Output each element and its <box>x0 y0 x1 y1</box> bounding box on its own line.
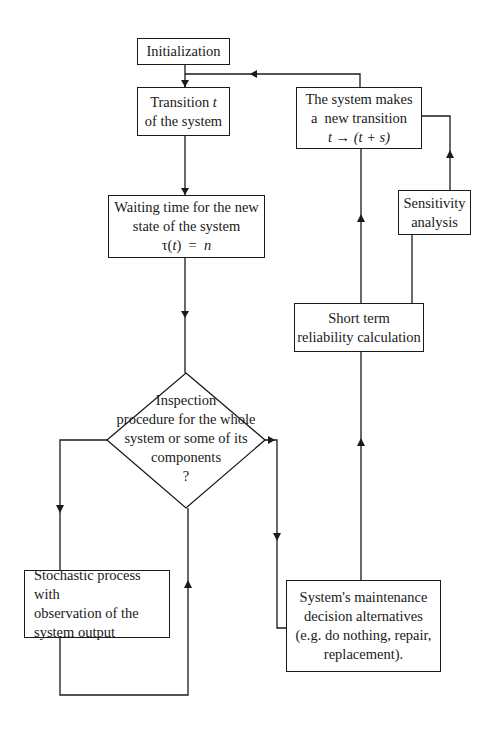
sensitivity-analysis-box: Sensitivity analysis <box>398 190 471 235</box>
transition-line1: Transition t <box>150 93 217 112</box>
waiting-time-box: Waiting time for the new state of the sy… <box>108 195 265 258</box>
stochastic-process-box: Stochastic process with observation of t… <box>24 570 170 638</box>
edge-newtransition-to-transition <box>185 74 360 87</box>
edge-inspection-to-stochastic <box>60 440 107 570</box>
new-transition-box: The system makes a new transition t → (t… <box>296 87 422 149</box>
waiting-formula: τ(t) = n <box>162 236 211 255</box>
transition-box: Transition t of the system <box>137 87 230 136</box>
short-term-reliability-box: Short term reliability calculation <box>294 303 424 352</box>
waiting-line1: Waiting time for the new <box>114 198 259 217</box>
initialization-label: Initialization <box>146 42 220 61</box>
inspection-label: Inspection procedure for the whole syste… <box>107 391 265 486</box>
initialization-box: Initialization <box>137 38 230 65</box>
edge-sensitivity-to-newtransition <box>422 116 450 190</box>
maintenance-decision-box: System's maintenance decision alternativ… <box>286 580 441 672</box>
transition-line2: of the system <box>145 112 222 131</box>
waiting-line2: state of the system <box>133 217 241 236</box>
